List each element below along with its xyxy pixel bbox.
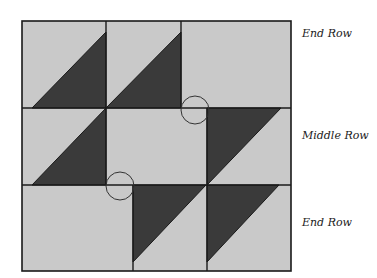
- row-label-middle: Middle Row: [302, 129, 369, 142]
- row-label-bottom: End Row: [302, 216, 352, 229]
- row-label-top: End Row: [302, 27, 352, 40]
